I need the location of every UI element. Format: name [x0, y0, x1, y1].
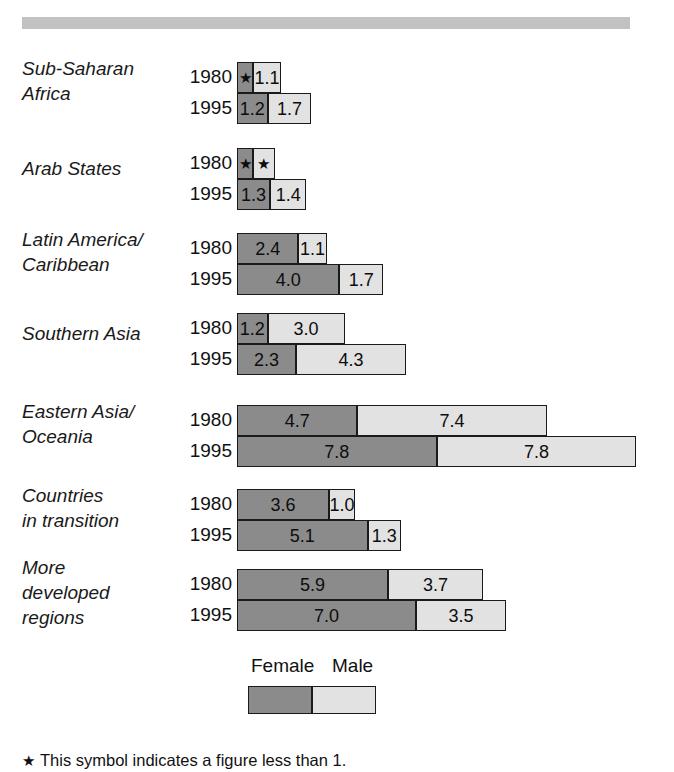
bar-row: 2.41.1 — [237, 233, 327, 264]
bar-segment-female: ★ — [237, 62, 253, 93]
bar-segment-female: 5.1 — [237, 520, 368, 551]
bar-segment-female: 2.3 — [237, 344, 296, 375]
bar-segment-female: 1.3 — [237, 179, 270, 210]
bar-segment-female: 1.2 — [237, 313, 268, 344]
bar-row: 2.34.3 — [237, 344, 406, 375]
bar-row: 4.77.4 — [237, 405, 547, 436]
bar-segment-female: 2.4 — [237, 233, 298, 264]
bar-value-label: 1.0 — [329, 496, 354, 514]
bar-value-label: 4.3 — [338, 351, 363, 369]
bar-value-label: 2.3 — [254, 351, 279, 369]
year-label: 1995 — [180, 441, 232, 461]
year-label: 1995 — [180, 98, 232, 118]
legend-labels: Female Male — [248, 655, 448, 681]
bar-segment-male: 3.5 — [416, 600, 506, 631]
chart-legend: Female Male — [248, 655, 448, 714]
year-label: 1995 — [180, 269, 232, 289]
bar-row: 7.87.8 — [237, 436, 636, 467]
year-label: 1980 — [180, 574, 232, 594]
legend-swatch-female — [248, 686, 312, 714]
year-label: 1980 — [180, 410, 232, 430]
bar-value-label: 2.4 — [255, 240, 280, 258]
bar-segment-male: 1.0 — [329, 489, 355, 520]
region-label: Latin America/ Caribbean — [22, 227, 177, 277]
bar-value-label: 1.2 — [240, 320, 265, 338]
bar-value-label: 1.1 — [255, 69, 280, 87]
footnote-text: This symbol indicates a figure less than… — [40, 751, 346, 769]
below-one-star-icon: ★ — [239, 156, 252, 171]
bar-row: 7.03.5 — [237, 600, 506, 631]
year-label: 1980 — [180, 238, 232, 258]
bar-value-label: 1.2 — [240, 100, 265, 118]
bar-value-label: 4.7 — [285, 412, 310, 430]
bar-segment-male: 7.4 — [357, 405, 546, 436]
bar-segment-female: 7.8 — [237, 436, 437, 467]
bar-segment-female: 5.9 — [237, 569, 388, 600]
region-label: Southern Asia — [22, 321, 177, 346]
bar-row: 1.31.4 — [237, 179, 306, 210]
bar-row: 3.61.0 — [237, 489, 355, 520]
bar-segment-female: 1.2 — [237, 93, 268, 124]
bar-segment-male: 4.3 — [296, 344, 406, 375]
legend-label-female: Female — [251, 655, 314, 677]
bar-segment-female: ★ — [237, 148, 253, 179]
footnote-star-icon: ★ — [22, 752, 40, 770]
bar-row: 5.93.7 — [237, 569, 483, 600]
bar-row: 1.21.7 — [237, 93, 311, 124]
bar-row: 1.23.0 — [237, 313, 345, 344]
bar-row: ★★ — [237, 148, 275, 179]
bar-value-label: 3.5 — [448, 607, 473, 625]
bar-segment-male: 3.7 — [388, 569, 483, 600]
bar-row: 4.01.7 — [237, 264, 383, 295]
year-label: 1980 — [180, 494, 232, 514]
bar-segment-female: 4.7 — [237, 405, 357, 436]
bar-segment-female: 3.6 — [237, 489, 329, 520]
legend-swatch — [248, 686, 376, 714]
bar-segment-male: 1.3 — [368, 520, 401, 551]
bar-segment-male: 1.7 — [268, 93, 312, 124]
bar-value-label: 7.0 — [314, 607, 339, 625]
bar-segment-male: 1.1 — [253, 62, 281, 93]
year-label: 1995 — [180, 349, 232, 369]
bar-value-label: 5.9 — [300, 576, 325, 594]
bar-value-label: 1.3 — [241, 186, 266, 204]
bar-value-label: 7.4 — [440, 412, 465, 430]
region-label: Eastern Asia/ Oceania — [22, 399, 177, 449]
bar-value-label: 3.6 — [271, 496, 296, 514]
below-one-star-icon: ★ — [239, 70, 252, 85]
below-one-star-icon: ★ — [257, 156, 270, 171]
region-label: Sub-Saharan Africa — [22, 56, 177, 106]
bar-value-label: 4.0 — [276, 271, 301, 289]
bar-value-label: 7.8 — [324, 443, 349, 461]
bar-segment-male: 1.1 — [298, 233, 326, 264]
bar-segment-male: 1.4 — [270, 179, 306, 210]
bar-row: 5.11.3 — [237, 520, 401, 551]
bar-value-label: 1.1 — [300, 240, 325, 258]
bar-segment-female: 7.0 — [237, 600, 416, 631]
legend-swatch-male — [312, 686, 376, 714]
bar-value-label: 3.0 — [294, 320, 319, 338]
year-label: 1995 — [180, 184, 232, 204]
bar-row: ★1.1 — [237, 62, 281, 93]
year-label: 1980 — [180, 153, 232, 173]
bar-value-label: 3.7 — [423, 576, 448, 594]
region-label: Arab States — [22, 156, 177, 181]
legend-label-male: Male — [332, 655, 373, 677]
bar-segment-male: 1.7 — [339, 264, 383, 295]
year-label: 1980 — [180, 67, 232, 87]
bar-segment-male: ★ — [253, 148, 275, 179]
bar-segment-male: 3.0 — [268, 313, 345, 344]
bar-value-label: 1.3 — [372, 527, 397, 545]
region-label: More developed regions — [22, 555, 177, 630]
year-label: 1995 — [180, 605, 232, 625]
bar-segment-female: 4.0 — [237, 264, 339, 295]
bar-value-label: 1.4 — [276, 186, 301, 204]
region-label: Countries in transition — [22, 483, 177, 533]
bar-value-label: 7.8 — [524, 443, 549, 461]
bar-value-label: 1.7 — [277, 100, 302, 118]
bar-segment-male: 7.8 — [437, 436, 637, 467]
year-label: 1980 — [180, 318, 232, 338]
bar-value-label: 5.1 — [290, 527, 315, 545]
year-label: 1995 — [180, 525, 232, 545]
bar-value-label: 1.7 — [349, 271, 374, 289]
